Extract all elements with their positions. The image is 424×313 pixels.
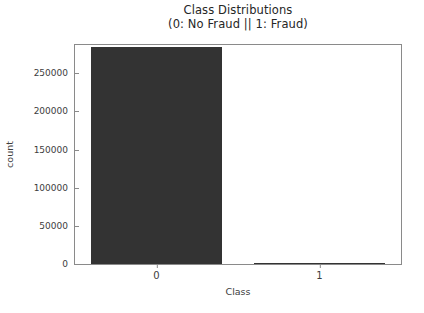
y-axis-label: count bbox=[2, 44, 16, 265]
y-tick-mark bbox=[75, 226, 79, 227]
y-axis-label-text: count bbox=[4, 141, 15, 168]
y-tick-label: 100000 bbox=[34, 183, 75, 193]
y-axis-tick-200000: 200000 bbox=[34, 106, 75, 116]
y-axis-tick-150000: 150000 bbox=[34, 145, 75, 155]
chart-title-block: Class Distributions (0: No Fraud || 1: F… bbox=[74, 4, 402, 31]
y-axis-tick-0: 0 bbox=[62, 259, 75, 269]
x-axis-tick-0: 0 bbox=[153, 264, 159, 281]
plot-surface bbox=[75, 45, 401, 264]
y-tick-label: 250000 bbox=[34, 68, 75, 78]
x-axis-label-text: Class bbox=[226, 286, 251, 297]
x-tick-mark bbox=[157, 264, 158, 268]
x-tick-mark bbox=[320, 264, 321, 268]
y-tick-mark bbox=[75, 150, 79, 151]
chart-subtitle: (0: No Fraud || 1: Fraud) bbox=[74, 18, 402, 32]
y-axis-tick-50000: 50000 bbox=[39, 221, 75, 231]
y-tick-label: 150000 bbox=[34, 145, 75, 155]
y-tick-mark bbox=[75, 73, 79, 74]
bar-class-0 bbox=[91, 47, 221, 264]
figure: Class Distributions (0: No Fraud || 1: F… bbox=[0, 0, 424, 313]
y-tick-mark bbox=[75, 188, 79, 189]
y-axis-tick-250000: 250000 bbox=[34, 68, 75, 78]
y-tick-label: 200000 bbox=[34, 106, 75, 116]
x-axis-tick-1: 1 bbox=[316, 264, 322, 281]
chart-title: Class Distributions bbox=[74, 4, 402, 18]
y-tick-label: 50000 bbox=[39, 221, 75, 231]
y-axis-tick-100000: 100000 bbox=[34, 183, 75, 193]
y-tick-mark bbox=[75, 111, 79, 112]
y-tick-label: 0 bbox=[62, 259, 75, 269]
plot-area: 05000010000015000020000025000001 bbox=[74, 44, 402, 265]
y-tick-mark bbox=[75, 264, 79, 265]
x-axis-label: Class bbox=[74, 286, 402, 297]
